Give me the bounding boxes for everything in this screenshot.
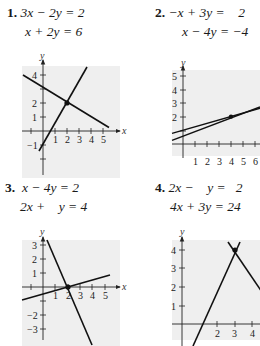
x-tick-label: 1 [193,156,198,167]
x-tick-label: 4 [90,290,95,301]
graph-4: y 2 3 4 4 3 2 1 [171,226,260,346]
x-tick-label: 1 [53,134,58,145]
y-tick-label: 1 [171,301,176,312]
x-tick-label: 2 [65,134,70,145]
x-tick-label: 2 [215,328,220,339]
y-tick-label: 3 [172,98,177,109]
y-tick-label: 1 [32,268,37,279]
y-tick-label: −1 [27,140,38,151]
x-tick-label: 3 [232,328,237,339]
x-tick-label: 2 [205,156,210,167]
y-tick-label: 4 [171,245,176,256]
y-axis-label: y [180,57,186,68]
y-tick-label: 5 [172,71,177,82]
x-tick-label: 5 [103,290,108,301]
graph-1: x y 1 2 3 4 5 4 2 1 −1 [22,50,127,178]
intersection-point [232,247,237,252]
x-axis-label: x [121,125,127,136]
x-tick-label: 3 [217,156,222,167]
x-tick-label: 4 [89,134,94,145]
x-tick-label: 3 [78,290,83,301]
graph-background [172,240,260,340]
x-tick-label: 4 [250,328,255,339]
y-tick-label: 2 [32,254,37,265]
y-axis-label: y [39,226,45,237]
x-tick-label: 3 [77,134,82,145]
intersection-point [229,114,233,118]
y-axis-label: y [39,50,45,61]
x-tick-label: 5 [241,156,246,167]
x-tick-label: 6 [253,156,258,167]
y-tick-label: 4 [32,70,37,81]
intersection-point [65,284,70,289]
y-tick-label: 3 [171,263,176,274]
x-tick-label: 5 [101,134,106,145]
y-tick-label: 2 [172,112,177,123]
y-axis-label: y [179,226,185,237]
intersection-point [64,100,69,105]
y-tick-label: 1 [32,112,37,123]
x-axis-label: x [121,281,127,292]
graphs-canvas: x y 1 2 3 4 5 4 2 1 −1 y [0,0,260,346]
graph-3: x y 1 2 3 4 5 3 2 1 −2 −3 [22,226,127,346]
y-tick-label: −2 [27,310,38,321]
y-tick-label: 3 [32,240,37,251]
graph-background [172,70,260,156]
y-tick-label: 4 [172,85,177,96]
x-tick-label: 4 [229,156,234,167]
y-tick-label: 2 [32,98,37,109]
y-tick-label: −3 [27,324,38,335]
graph-2: y 1 2 3 4 5 6 5 4 3 2 [172,57,260,167]
y-tick-label: 2 [171,282,176,293]
